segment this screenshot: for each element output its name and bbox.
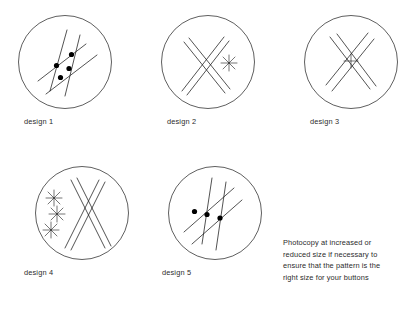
design-1-figure xyxy=(18,15,112,109)
design-2-asterisk xyxy=(221,55,237,71)
design-2-pattern xyxy=(182,37,230,95)
design-4-circle xyxy=(36,167,129,260)
design-1-cell: design 1 xyxy=(18,15,112,109)
design-1-label: design 1 xyxy=(24,117,53,127)
design-5-figure xyxy=(168,166,262,260)
note-line-3: ensure that the pattern is the xyxy=(283,260,416,272)
design-5-cell: design 5 xyxy=(168,166,262,260)
photocopy-note: Photocopy at increased or reduced size i… xyxy=(283,237,416,283)
design-2-cell: design 2 xyxy=(161,15,255,109)
design-1-pattern xyxy=(38,30,97,96)
worksheet-sheet: design 1 design 2 xyxy=(0,0,416,316)
design-2-label: design 2 xyxy=(167,117,196,127)
design-4-label: design 4 xyxy=(24,268,53,278)
design-1-dots xyxy=(54,52,74,80)
design-5-circle xyxy=(169,167,262,260)
design-4-figure xyxy=(35,166,129,260)
design-4-asterisks xyxy=(43,190,65,238)
design-4-pattern xyxy=(65,178,111,250)
design-3-cell: design 3 xyxy=(304,15,398,109)
design-5-label: design 5 xyxy=(162,268,191,278)
design-4-cell: design 4 xyxy=(35,166,129,260)
note-line-4: right size for your buttons xyxy=(283,272,416,284)
design-2-figure xyxy=(161,15,255,109)
note-line-2: reduced size if necessary to xyxy=(283,249,416,261)
design-3-label: design 3 xyxy=(310,117,339,127)
note-line-1: Photocopy at increased or xyxy=(283,237,416,249)
design-5-pattern xyxy=(184,178,242,250)
design-3-figure xyxy=(304,15,398,109)
design-3-center-star xyxy=(344,54,358,68)
